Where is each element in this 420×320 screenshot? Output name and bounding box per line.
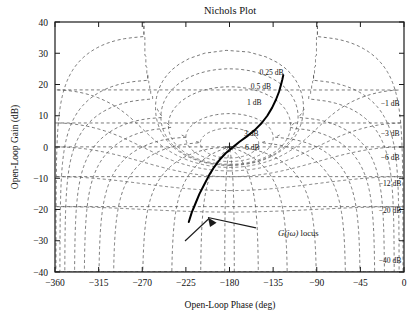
y-tick-label: 40 [39, 18, 49, 28]
m-contour-label-inner: 0.5 dB [251, 82, 271, 91]
m-contour-label-inner: 0.25 dB [260, 68, 284, 77]
m-contour-label-right: −12 dB [379, 179, 402, 188]
x-tick-label: −360 [45, 278, 65, 288]
m-contour-label-right: −20 dB [379, 206, 402, 215]
m-contour-label-right: −1 dB [381, 99, 400, 108]
m-contour-label-inner: 3 dB [244, 129, 259, 138]
y-tick-label: 20 [39, 80, 49, 90]
m-contour-label-right: −6 dB [381, 153, 400, 162]
y-tick-label: 30 [39, 49, 49, 59]
x-tick-label: 0 [402, 278, 407, 288]
y-tick-label: −40 [33, 268, 48, 278]
x-axis-label: Open-Loop Phase (deg) [185, 300, 276, 311]
m-contour-label-right: −3 dB [381, 129, 400, 138]
y-tick-label: 0 [43, 143, 48, 153]
nichols-plot-canvas: Nichols Plot −360−315−270−225−180−135−90… [0, 0, 420, 320]
x-tick-label: −315 [89, 278, 109, 288]
x-tick-label: −90 [309, 278, 324, 288]
x-tick-label: −45 [353, 278, 368, 288]
x-tick-label: −180 [220, 278, 240, 288]
y-tick-label: 10 [39, 111, 49, 121]
m-contour-label-right: −40 dB [379, 256, 402, 265]
x-tick-label: −135 [263, 278, 283, 288]
y-tick-label: −30 [33, 236, 48, 246]
nichols-plot-figure: Nichols Plot −360−315−270−225−180−135−90… [0, 0, 420, 320]
page-title: Nichols Plot [204, 5, 256, 16]
m-contour-label-inner: 1 dB [247, 98, 262, 107]
m-contour-label-inner: 6 dB [245, 143, 260, 152]
y-axis-label: Open-Loop Gain (dB) [10, 105, 21, 189]
locus-annotation-label: G(jω) locus [278, 228, 319, 238]
y-tick-label: −10 [33, 174, 48, 184]
x-tick-label: −270 [132, 278, 152, 288]
y-tick-label: −20 [33, 205, 48, 215]
x-tick-label: −225 [176, 278, 196, 288]
